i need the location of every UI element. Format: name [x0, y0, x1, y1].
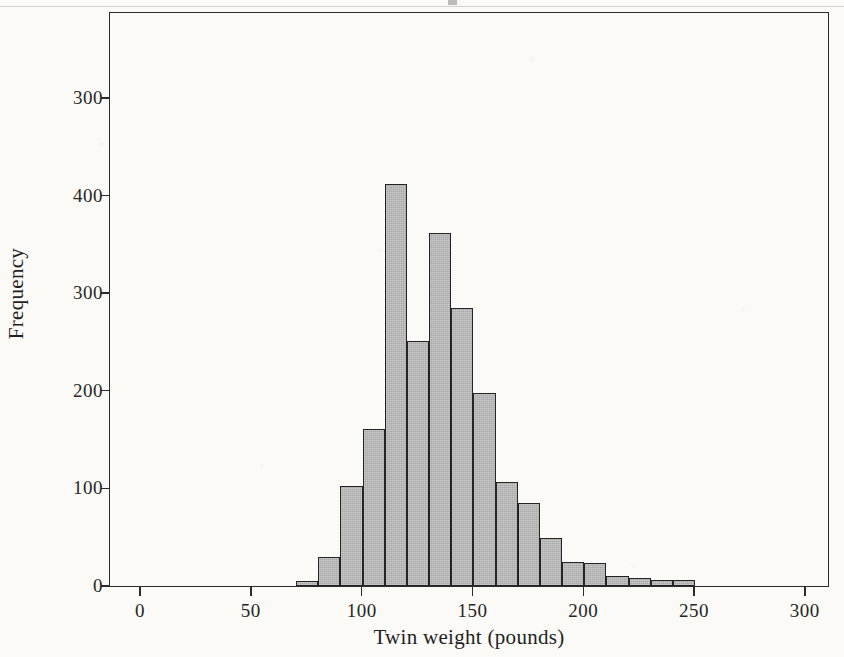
histogram-bar — [518, 503, 540, 586]
histogram-bar — [318, 557, 340, 586]
y-axis-tick-label: 300 — [73, 86, 103, 108]
x-axis-ticks: 050100150200250300 — [109, 587, 829, 627]
y-axis-title: Frequency — [2, 0, 32, 587]
x-axis-tick-label: 50 — [241, 600, 261, 622]
histogram-bar — [673, 580, 695, 586]
histogram-bar — [562, 562, 584, 586]
x-axis-tick-mark — [139, 587, 140, 596]
histogram-bar — [429, 233, 451, 586]
x-axis-tick-label: 100 — [347, 600, 377, 622]
histogram-bar — [451, 308, 473, 586]
x-axis-tick-mark — [472, 587, 473, 596]
x-axis-tick-label: 200 — [568, 600, 598, 622]
x-axis-tick-label: 150 — [457, 600, 487, 622]
y-axis-title-text: Frequency — [5, 248, 30, 339]
x-axis-title: Twin weight (pounds) — [109, 625, 829, 650]
x-axis-tick-label: 250 — [679, 600, 709, 622]
y-axis-tick-label: 300 — [73, 282, 103, 304]
histogram-bar — [296, 581, 318, 586]
histogram-bar — [473, 393, 495, 586]
histogram-bar — [407, 341, 429, 586]
y-axis-tick-label: 400 — [73, 184, 103, 206]
histogram-bar — [651, 580, 673, 586]
y-axis-tick-label: 100 — [73, 477, 103, 499]
x-axis-tick-label: 300 — [790, 600, 820, 622]
x-axis-tick-mark — [583, 587, 584, 596]
y-axis-tick-label: 0 — [93, 575, 103, 597]
histogram-bar — [540, 538, 562, 586]
x-axis-tick-mark — [250, 587, 251, 596]
scan-crop-line — [0, 6, 844, 7]
y-axis-tick-label: 200 — [73, 379, 103, 401]
plot-frame: 0100200300400300 — [109, 12, 829, 587]
histogram-bar — [584, 563, 606, 586]
histogram-bar — [385, 184, 407, 586]
x-axis-tick-mark — [804, 587, 805, 596]
x-axis-title-text: Twin weight (pounds) — [373, 625, 564, 649]
x-axis-tick-mark — [693, 587, 694, 596]
histogram-figure: Frequency 0100200300400300 0501001502002… — [0, 0, 844, 657]
histogram-bar — [496, 482, 518, 586]
histogram-bar — [340, 486, 362, 586]
histogram-bar — [629, 578, 651, 586]
plot-area: 0100200300400300 — [110, 13, 828, 586]
scan-crop-mark — [448, 0, 457, 5]
histogram-bar — [606, 576, 628, 586]
x-axis-tick-mark — [361, 587, 362, 596]
x-axis-tick-label: 0 — [135, 600, 145, 622]
histogram-bar — [363, 429, 385, 586]
